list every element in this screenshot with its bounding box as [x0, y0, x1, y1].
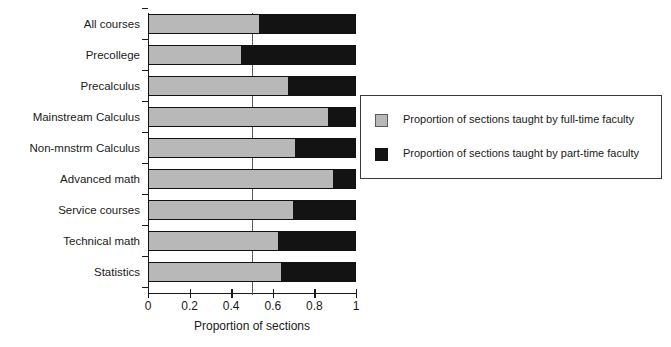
bar-track [148, 262, 356, 282]
bar-track [148, 169, 356, 189]
category-label: Precollege [0, 45, 140, 65]
bar-row [148, 169, 356, 189]
bar-row [148, 138, 356, 158]
bar-track [148, 76, 356, 96]
category-label: Precalculus [0, 76, 140, 96]
bar-segment-part-time [281, 263, 356, 281]
bar-track [148, 200, 356, 220]
bar-segment-full-time [149, 232, 278, 250]
y-axis-tick [142, 8, 148, 9]
x-axis-tick [356, 289, 357, 298]
bar-track [148, 107, 356, 127]
x-axis-tick-label: 0.6 [253, 299, 293, 313]
x-axis-tick [314, 289, 315, 298]
bar-segment-full-time [149, 139, 295, 157]
bar-row [148, 45, 356, 65]
y-axis-tick [142, 39, 148, 40]
x-axis-tick [231, 289, 232, 298]
bar-segment-full-time [149, 170, 333, 188]
bar-row [148, 200, 356, 220]
bar-track [148, 231, 356, 251]
x-axis-tick-label: 0.4 [211, 299, 251, 313]
bar-segment-full-time [149, 263, 281, 281]
legend-swatch-full-time-icon [375, 114, 388, 127]
legend-swatch-part-time-icon [375, 148, 388, 161]
x-axis-tick [148, 289, 149, 298]
category-label: Service courses [0, 200, 140, 220]
bar-row [148, 262, 356, 282]
bar-segment-part-time [241, 46, 356, 64]
x-axis-tick [273, 289, 274, 298]
bar-segment-full-time [149, 108, 328, 126]
legend-label-part-time: Proportion of sections taught by part-ti… [403, 147, 639, 160]
bar-segment-part-time [295, 139, 356, 157]
bar-track [148, 45, 356, 65]
y-axis-tick [142, 163, 148, 164]
y-axis-tick [142, 101, 148, 102]
x-axis-tick-label: 1 [336, 299, 376, 313]
bar-segment-part-time [333, 170, 356, 188]
y-axis-tick [142, 256, 148, 257]
bar-track [148, 14, 356, 34]
x-axis-tick-label: 0 [128, 299, 168, 313]
bar-segment-part-time [328, 108, 356, 126]
x-axis-tick [190, 289, 191, 298]
bar-segment-full-time [149, 46, 241, 64]
bar-segment-full-time [149, 77, 288, 95]
x-axis-tick-label: 0.8 [294, 299, 334, 313]
bar-segment-full-time [149, 15, 259, 33]
bar-segment-part-time [278, 232, 356, 250]
bar-row [148, 14, 356, 34]
x-axis-title: Proportion of sections [148, 319, 356, 333]
legend: Proportion of sections taught by full-ti… [360, 95, 662, 179]
category-label: Advanced math [0, 169, 140, 189]
bar-row [148, 107, 356, 127]
x-axis-tick-label: 0.2 [170, 299, 210, 313]
category-label: All courses [0, 14, 140, 34]
category-label: Statistics [0, 262, 140, 282]
legend-label-full-time: Proportion of sections taught by full-ti… [403, 113, 634, 126]
bar-track [148, 138, 356, 158]
category-label: Non-mnstrm Calculus [0, 138, 140, 158]
category-label: Mainstream Calculus [0, 107, 140, 127]
category-label: Technical math [0, 231, 140, 251]
bar-segment-part-time [293, 201, 356, 219]
stacked-bar-chart: All coursesPrecollegePrecalculusMainstre… [0, 0, 671, 347]
bar-segment-part-time [259, 15, 356, 33]
bar-row [148, 231, 356, 251]
y-axis-tick [142, 70, 148, 71]
y-axis-tick [142, 225, 148, 226]
y-axis-tick [142, 132, 148, 133]
bar-segment-part-time [288, 77, 356, 95]
y-axis-tick [142, 194, 148, 195]
legend-entry-part-time: Proportion of sections taught by part-ti… [375, 147, 653, 161]
bar-row [148, 76, 356, 96]
bar-segment-full-time [149, 201, 293, 219]
legend-entry-full-time: Proportion of sections taught by full-ti… [375, 113, 653, 127]
